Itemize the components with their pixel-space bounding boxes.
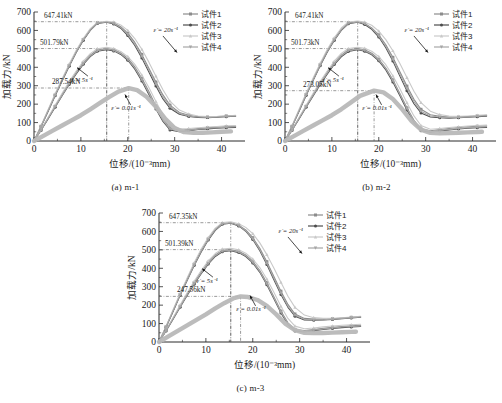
annotation-value-label: 647.41kN [44, 12, 73, 20]
x-tick-label: 40 [468, 144, 478, 154]
legend-label: 试件3 [201, 31, 222, 41]
legend-label: 试件1 [326, 210, 347, 220]
legend-marker [440, 24, 443, 27]
x-axis-title: 位移/(10⁻³mm) [360, 158, 421, 170]
marker-circle [440, 24, 443, 27]
y-tick-label: 100 [142, 319, 157, 329]
y-tick-label: 500 [142, 245, 157, 255]
annotation-value-label: 501.39kN [165, 240, 194, 248]
legend-label: 试件1 [452, 9, 473, 19]
x-tick-label: 40 [342, 345, 352, 355]
strain-rate-label: ε̇ = 20s⁻¹ [154, 26, 179, 33]
y-tick-label: 300 [17, 81, 32, 91]
curve-markers [290, 20, 479, 127]
x-axis-title: 位移/(10⁻³mm) [109, 158, 170, 170]
y-tick-label: 200 [142, 300, 157, 310]
plot-area-m-2: 0100200300400500600700010203040位移/(10⁻³m… [251, 0, 502, 175]
y-tick-label: 600 [17, 26, 32, 36]
chart-svg-m-1: 0100200300400500600700010203040位移/(10⁻³m… [0, 0, 251, 175]
x-tick-label: 20 [374, 144, 384, 154]
legend-label: 试件1 [201, 9, 222, 19]
marker-square [440, 13, 443, 16]
chart-svg-m-3: 0100200300400500600700010203040位移/(10⁻³m… [125, 201, 376, 376]
strain-rate-label: ε̇ = 20s⁻¹ [405, 26, 430, 33]
curve-mid [34, 47, 236, 141]
strain-rate-label: ε̇ = 0.01s⁻¹ [236, 305, 265, 312]
legend-label: 试件2 [452, 20, 473, 30]
legend-label: 试件3 [452, 31, 473, 41]
annotation-arrow-line [414, 36, 428, 53]
legend-label: 试件3 [326, 232, 347, 242]
legend-label: 试件4 [201, 42, 222, 52]
marker-circle [189, 24, 192, 27]
x-tick-label: 30 [170, 144, 180, 154]
annotation-arrow-line [163, 36, 177, 53]
legend-label: 试件4 [452, 42, 473, 52]
curve-markers [164, 222, 353, 328]
y-tick-label: 700 [268, 7, 283, 17]
marker-square [189, 13, 192, 16]
legend-marker [314, 225, 317, 228]
y-tick-label: 700 [17, 7, 32, 17]
y-tick-label: 500 [268, 44, 283, 54]
legend-marker [189, 24, 192, 27]
strain-rate-label: ε̇ = 5s⁻¹ [323, 76, 344, 83]
legend-label: 试件2 [326, 221, 347, 231]
curve-markers [39, 20, 228, 127]
panel-caption-c: (c) m-3 [125, 383, 376, 393]
figure-container: 0100200300400500600700010203040位移/(10⁻³m… [0, 0, 502, 403]
plot-area-m-1: 0100200300400500600700010203040位移/(10⁻³m… [0, 0, 251, 175]
legend-marker [440, 13, 443, 16]
y-tick-label: 600 [268, 26, 283, 36]
x-tick-label: 10 [327, 144, 337, 154]
strain-rate-label: ε̇ = 5s⁻¹ [197, 277, 218, 284]
curve-markers [291, 21, 479, 127]
y-axis-title: 加载力/kN [252, 54, 263, 98]
legend-marker [189, 13, 192, 16]
y-tick-label: 300 [268, 81, 283, 91]
x-tick-label: 0 [283, 144, 288, 154]
y-tick-label: 400 [268, 63, 283, 73]
y-tick-label: 700 [142, 208, 157, 218]
x-axis-title: 位移/(10⁻³mm) [234, 359, 295, 371]
y-tick-label: 200 [268, 99, 283, 109]
legend-label: 试件2 [201, 20, 222, 30]
marker-circle [314, 225, 317, 228]
y-tick-label: 500 [17, 44, 32, 54]
x-tick-label: 20 [123, 144, 133, 154]
strain-rate-label: ε̇ = 0.01s⁻¹ [362, 104, 391, 111]
panel-caption-a: (a) m-1 [0, 182, 251, 192]
marker-square [314, 214, 317, 217]
chart-panel-m-1: 0100200300400500600700010203040位移/(10⁻³m… [0, 0, 251, 201]
y-tick-label: 100 [17, 118, 32, 128]
y-tick-label: 200 [17, 99, 32, 109]
y-tick-label: 600 [142, 227, 157, 237]
chart-svg-m-2: 0100200300400500600700010203040位移/(10⁻³m… [251, 0, 502, 175]
plot-area-m-3: 0100200300400500600700010203040位移/(10⁻³m… [125, 201, 376, 376]
x-tick-label: 0 [157, 345, 162, 355]
curve-markers [165, 222, 353, 328]
chart-panel-m-2: 0100200300400500600700010203040位移/(10⁻³m… [251, 0, 502, 201]
y-tick-label: 100 [268, 118, 283, 128]
annotation-value-label: 247.56kN [177, 286, 206, 294]
curve-markers [291, 48, 479, 131]
curve-slow-band [34, 88, 231, 141]
strain-rate-label: ε̇ = 20s⁻¹ [279, 227, 304, 234]
legend-marker [314, 214, 317, 217]
y-tick-label: 400 [17, 63, 32, 73]
y-tick-label: 400 [142, 264, 157, 274]
strain-rate-label: ε̇ = 0.01s⁻¹ [111, 104, 140, 111]
x-tick-label: 30 [421, 144, 431, 154]
annotation-value-label: 501.73kN [291, 39, 320, 47]
y-tick-label: 300 [142, 282, 157, 292]
y-tick-label: 0 [277, 136, 282, 146]
legend-label: 试件4 [326, 243, 347, 253]
y-axis-title: 加载力/kN [1, 54, 12, 98]
annotation-value-label: 647.41kN [295, 12, 324, 20]
annotation-value-label: 647.35kN [169, 213, 198, 221]
y-tick-label: 0 [151, 337, 156, 347]
y-tick-label: 0 [26, 136, 31, 146]
y-axis-title: 加载力/kN [126, 255, 137, 299]
panel-caption-b: (b) m-2 [251, 182, 502, 192]
x-tick-label: 0 [32, 144, 37, 154]
